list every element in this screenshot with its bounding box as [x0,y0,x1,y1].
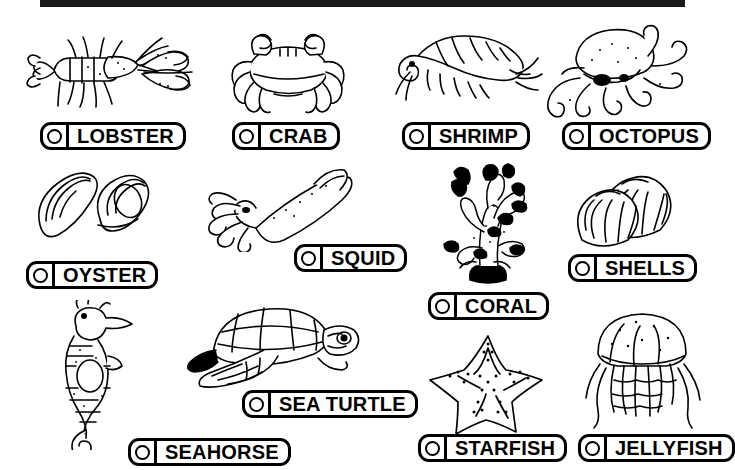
lobster-illustration [18,22,198,118]
label-text-jellyfish: JELLYFISH [607,437,732,459]
starfish-illustration [424,330,554,435]
label-shells[interactable]: SHELLS [568,254,697,282]
label-text-lobster: LOBSTER [69,125,183,147]
label-shrimp[interactable]: SHRIMP [402,122,530,150]
circle-checkbox-icon [569,129,584,144]
shrimp-illustration [384,22,544,118]
checkbox-oyster[interactable] [29,264,55,286]
circle-checkbox-icon [585,441,600,456]
circle-checkbox-icon [249,397,264,412]
octopus-illustration [540,22,720,118]
checkbox-octopus[interactable] [565,125,591,147]
label-lobster[interactable]: LOBSTER [40,122,186,150]
circle-checkbox-icon [409,129,424,144]
checkbox-coral[interactable] [431,295,457,317]
circle-checkbox-icon [575,261,590,276]
checkbox-crab[interactable] [235,125,261,147]
circle-checkbox-icon [47,129,62,144]
checkbox-lobster[interactable] [43,125,69,147]
label-text-coral: CORAL [457,295,546,317]
label-text-oyster: OYSTER [55,264,155,286]
label-jellyfish[interactable]: JELLYFISH [578,434,735,462]
crab-illustration [218,22,358,118]
label-squid[interactable]: SQUID [294,244,407,272]
oyster-illustration [26,165,186,255]
circle-checkbox-icon [301,251,316,266]
label-text-shells: SHELLS [597,257,694,279]
label-text-seaturtle: SEA TURTLE [271,393,415,415]
label-crab[interactable]: CRAB [232,122,340,150]
checkbox-starfish[interactable] [421,437,447,459]
label-oyster[interactable]: OYSTER [26,261,158,289]
label-octopus[interactable]: OCTOPUS [562,122,711,150]
label-text-seahorse: SEAHORSE [157,441,288,463]
sea-turtle-illustration [168,300,368,400]
checkbox-shells[interactable] [571,257,597,279]
label-text-starfish: STARFISH [447,437,564,459]
label-text-crab: CRAB [261,125,337,147]
circle-checkbox-icon [239,129,254,144]
circle-checkbox-icon [33,268,48,283]
page-top-band [40,0,685,7]
checkbox-seahorse[interactable] [131,441,157,463]
circle-checkbox-icon [425,441,440,456]
seahorse-illustration [40,300,150,450]
shells-illustration [562,168,712,252]
circle-checkbox-icon [135,445,150,460]
checkbox-squid[interactable] [297,247,323,269]
jellyfish-illustration [580,306,710,434]
squid-illustration [196,162,376,252]
coral-illustration [424,162,554,290]
label-text-shrimp: SHRIMP [431,125,527,147]
circle-checkbox-icon [435,299,450,314]
checkbox-seaturtle[interactable] [245,393,271,415]
label-text-squid: SQUID [323,247,404,269]
checkbox-jellyfish[interactable] [581,437,607,459]
label-seahorse[interactable]: SEAHORSE [128,438,291,466]
label-starfish[interactable]: STARFISH [418,434,567,462]
label-text-octopus: OCTOPUS [591,125,708,147]
label-coral[interactable]: CORAL [428,292,549,320]
label-seaturtle[interactable]: SEA TURTLE [242,390,418,418]
checkbox-shrimp[interactable] [405,125,431,147]
